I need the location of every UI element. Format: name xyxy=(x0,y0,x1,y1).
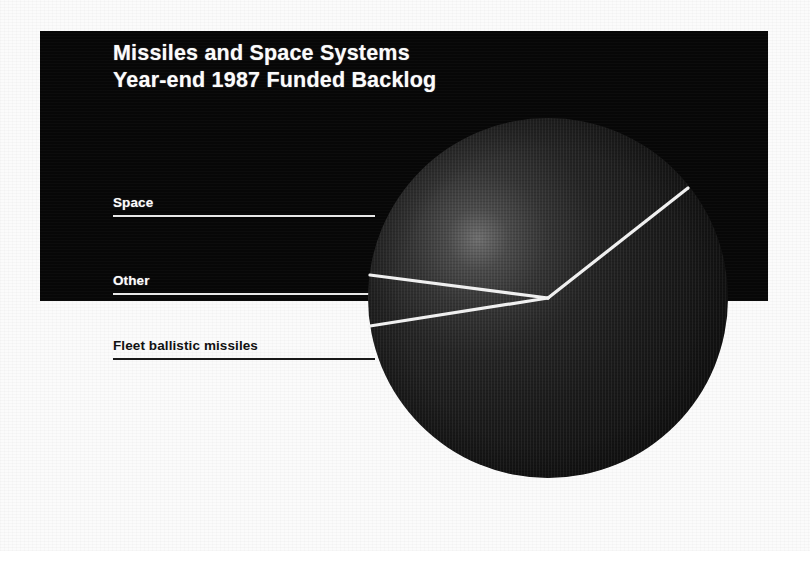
callout-space: Space xyxy=(113,195,375,217)
title-line-1: Missiles and Space Systems xyxy=(113,40,653,67)
page-canvas: Missiles and Space Systems Year-end 1987… xyxy=(0,0,810,571)
pie-divider-space xyxy=(548,188,688,298)
callout-other-label: Other xyxy=(113,273,375,289)
pie-divider-lines xyxy=(368,118,728,478)
title-line-2: Year-end 1987 Funded Backlog xyxy=(113,67,653,94)
pie-sphere xyxy=(368,118,728,478)
chart-title: Missiles and Space Systems Year-end 1987… xyxy=(113,40,653,94)
callout-space-leader-line xyxy=(113,215,375,217)
callout-fleet-ballistic-missiles-label: Fleet ballistic missiles xyxy=(113,338,375,354)
callout-fleet-ballistic-missiles: Fleet ballistic missiles xyxy=(113,338,375,360)
callout-space-label: Space xyxy=(113,195,375,211)
callout-fleet-ballistic-missiles-leader-line xyxy=(113,358,375,360)
callout-other: Other xyxy=(113,273,375,295)
pie-divider-other xyxy=(370,275,548,298)
pie-divider-fleet-ballistic-missiles xyxy=(370,298,548,326)
callout-other-leader-line xyxy=(113,293,375,295)
